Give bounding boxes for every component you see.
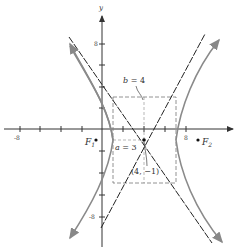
- hyperbola-diagram: -8 8 y 8 -8 F1 F2 b = 4 a = 3: [0, 0, 239, 250]
- x-axis: [4, 126, 233, 132]
- a-label: a = 3: [115, 143, 137, 152]
- y-tick-8: 8: [94, 40, 98, 47]
- y-tick-neg8: -8: [89, 213, 95, 220]
- f2-label: F2: [201, 137, 212, 148]
- x-tick-neg8: -8: [14, 134, 20, 141]
- asymptote-positive-slope: [101, 34, 205, 228]
- center-label: (4, −1): [131, 167, 159, 176]
- x-tick-8: 8: [184, 134, 188, 141]
- b-label-pointer: [136, 86, 143, 100]
- y-axis: [99, 16, 105, 247]
- hyperbola-right-branch-lower: [176, 140, 222, 242]
- y-axis-label: y: [98, 4, 104, 12]
- focus-f2: [196, 138, 199, 141]
- b-label: b = 4: [123, 76, 145, 85]
- f1-label: F1: [84, 137, 95, 148]
- center-point: [142, 138, 146, 142]
- hyperbola-right-branch-upper: [176, 40, 219, 140]
